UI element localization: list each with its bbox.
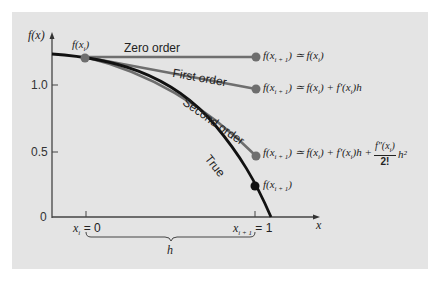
true-point xyxy=(251,182,260,191)
zero-order-equation: f(xi + 1) ≃ f(xi) xyxy=(263,49,324,64)
y-axis-label: f(x) xyxy=(28,28,45,43)
y-tick-label-0: 0 xyxy=(40,210,47,224)
step-brace xyxy=(86,232,255,241)
step-label: h xyxy=(167,243,173,258)
start-point xyxy=(81,54,90,63)
y-tick-label-1: 1.0 xyxy=(31,78,48,92)
true-value-label: f(xi + 1) xyxy=(263,178,292,193)
y-axis-arrow-icon xyxy=(50,32,55,39)
second-order-point xyxy=(252,152,261,161)
zero-order-point xyxy=(252,53,261,62)
first-order-equation: f(xi + 1) ≃ f(xi) + f′(xi)h xyxy=(263,81,362,96)
x-axis-label: x xyxy=(316,218,321,233)
second-order-equation: f(xi + 1) ≃ f(xi) + f′(xi)h + f″(xi) 2! … xyxy=(263,141,407,167)
zero-order-label: Zero order xyxy=(124,41,180,55)
second-derivative-fraction: f″(xi) 2! xyxy=(374,141,396,167)
x-tick-label-xi: xi = 0 xyxy=(73,221,101,237)
x-tick-label-xi1: xi + 1 = 1 xyxy=(233,221,272,237)
y-tick-label-05: 0.5 xyxy=(31,145,48,159)
first-order-point xyxy=(252,85,261,94)
start-point-label: f(xi) xyxy=(72,38,89,53)
